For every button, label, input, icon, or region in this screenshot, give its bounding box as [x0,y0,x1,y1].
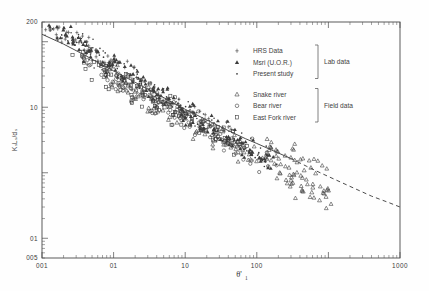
data-point [84,45,86,47]
data-point [318,185,322,188]
y-tick-label: 10 [30,104,38,111]
legend-marker-open-triangle [235,92,239,96]
data-point [236,160,240,163]
data-point [106,78,109,81]
data-point [133,90,137,94]
legend-marker-circle [235,104,239,108]
data-point [141,83,143,85]
data-point [64,37,67,41]
data-point [133,79,135,81]
data-point [136,73,138,75]
data-point [76,42,78,44]
data-point [312,157,316,160]
data-point [269,158,273,161]
data-point [222,149,225,152]
data-point [187,101,189,103]
data-point [324,206,328,209]
data-point [77,37,79,39]
legend-label: Present study [253,70,294,78]
data-point [264,166,266,168]
data-point [106,54,109,58]
data-point [188,125,191,128]
y-tick-label: 200 [26,18,38,25]
data-point [279,162,283,165]
data-point [90,79,93,82]
data-point [114,77,117,80]
data-point [67,30,70,34]
data-point [318,198,322,202]
data-point [100,73,103,76]
data-point [77,48,81,51]
data-point [294,196,298,199]
data-point [84,67,87,70]
data-point [203,113,205,115]
legend-marker-square [235,116,238,119]
legend-label: East Fork river [253,114,297,121]
data-point [178,98,180,100]
data-point [213,117,215,119]
data-point [269,140,273,143]
data-point [114,59,116,61]
y-axis-title: KₛLₛ/dₛ [11,129,18,151]
data-point [252,155,254,157]
data-point [180,123,183,126]
x-tick-label: 1000 [392,262,408,269]
data-point [241,132,243,134]
data-point [102,50,104,52]
data-point [103,56,105,58]
data-point [300,176,304,180]
data-point [112,53,116,56]
data-point [63,27,65,29]
data-point [288,173,292,176]
legend-group-label: Field data [324,102,353,109]
data-point [258,170,261,173]
data-point [55,33,58,37]
data-point [265,137,269,141]
legend-marker-cross [235,49,238,53]
data-point [92,47,94,49]
data-point [196,118,198,120]
data-point [211,146,215,149]
legend-label: HRS Data [253,47,283,54]
data-point [81,34,84,38]
legend: HRS DataMsri (U.O.R.)Present studyLab da… [235,45,353,122]
data-point [89,63,92,66]
data-point [299,184,303,187]
data-point [260,147,262,149]
data-point [166,97,168,99]
data-point [129,63,133,66]
data-point [87,36,90,40]
data-point [128,73,130,75]
data-point [246,150,248,152]
legend-group-bracket [315,89,318,123]
data-point [70,32,72,34]
x-axis-title-subscript: 1 [245,275,248,281]
data-point [216,119,220,122]
data-point [163,106,166,109]
data-point [295,170,299,173]
data-point [69,25,73,28]
data-point [304,178,308,181]
x-axis-tick-labels: 00101101001000 [36,262,408,269]
data-point [140,78,142,80]
data-point [78,34,80,36]
data-point [90,53,92,55]
y-tick-label: 005 [26,254,38,261]
data-point [81,42,83,44]
data-point [136,77,138,79]
data-point [240,153,244,156]
series-snake-river [102,63,333,209]
figure-container: 00101101001000 2001001005 HRS DataMsri (… [0,0,429,291]
y-tick-label: 01 [30,235,38,242]
data-point [284,164,288,167]
data-point [257,154,259,156]
data-point [308,195,312,198]
data-point [233,138,235,140]
legend-group-bracket [315,45,318,79]
data-point [126,59,129,63]
data-point [93,67,95,69]
data-point [132,73,134,75]
data-point [191,137,195,140]
data-point [191,120,195,124]
data-point [184,123,188,126]
